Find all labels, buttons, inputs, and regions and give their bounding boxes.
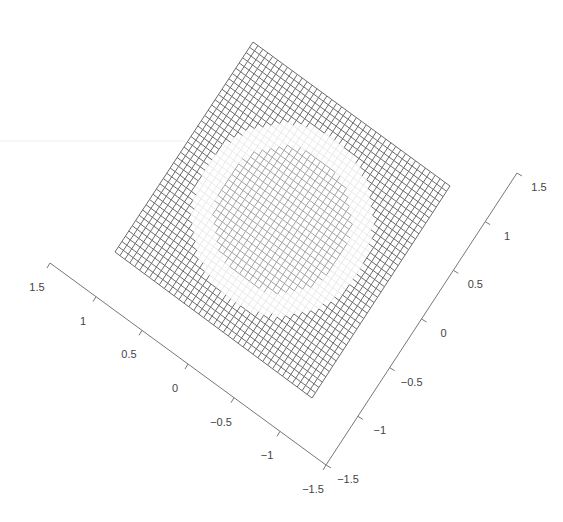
tick-label: −0.5 — [401, 376, 423, 388]
tick-label: 0.5 — [468, 278, 483, 290]
tick-label: −0.5 — [210, 416, 232, 428]
y-axis: −1.5−1−0.500.511.5 — [326, 173, 547, 485]
tick-label: 1 — [504, 230, 510, 242]
tick-label: 0.5 — [121, 348, 136, 360]
tick-label: 1.5 — [531, 181, 546, 193]
axis-tick — [485, 222, 490, 225]
axis-tick — [323, 465, 326, 470]
tick-label: 1.5 — [29, 281, 44, 293]
surface-mesh — [115, 42, 450, 398]
axis-tick — [326, 465, 331, 468]
surface-plot: 1.510.50−0.5−1−1.5 −1.5−1−0.500.511.5 — [0, 0, 563, 522]
axis-tick — [231, 398, 234, 403]
tick-label: −1.5 — [302, 483, 324, 495]
axis-tick — [453, 270, 458, 273]
axis-tick — [390, 368, 395, 371]
axis-tick — [47, 263, 50, 268]
tick-label: −1.5 — [337, 473, 359, 485]
axis-tick — [358, 416, 363, 419]
axis-tick — [139, 330, 142, 335]
tick-label: 0 — [172, 382, 178, 394]
tick-label: 1 — [80, 315, 86, 327]
x-axis: 1.510.50−0.5−1−1.5 — [29, 263, 326, 495]
axis-tick — [422, 319, 427, 322]
tick-label: −1 — [261, 449, 274, 461]
axis-tick — [277, 431, 280, 436]
axis-tick — [517, 173, 522, 176]
axis-tick — [93, 297, 96, 302]
tick-label: −1 — [374, 424, 387, 436]
tick-label: 0 — [440, 327, 446, 339]
axis-tick — [185, 364, 188, 369]
